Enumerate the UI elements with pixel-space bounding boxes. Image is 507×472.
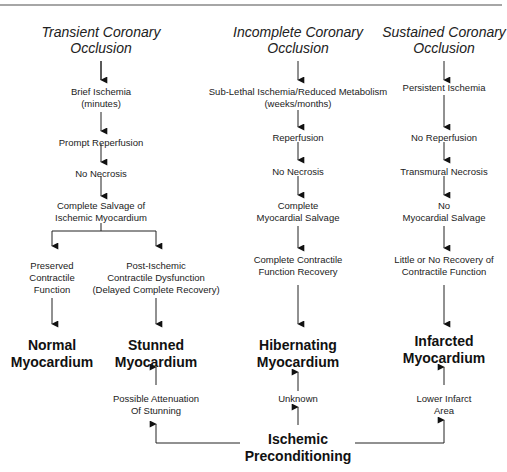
step-no-necrosis-transient: No Necrosis — [75, 168, 127, 180]
step-sublethal-ischemia: Sub-Lethal Ischemia/Reduced Metabolism (… — [209, 86, 387, 110]
step-complete-myocardial-salvage: Complete Myocardial Salvage — [257, 200, 340, 224]
outcome-normal-myocardium: Normal Myocardium — [11, 337, 93, 371]
title-transient-occlusion: Transient Coronary Occlusion — [42, 24, 161, 56]
title-sustained-occlusion: Sustained Coronary Occlusion — [382, 24, 506, 56]
step-no-reperfusion: No Reperfusion — [411, 132, 477, 144]
step-reperfusion: Reperfusion — [272, 132, 323, 144]
title-incomplete-occlusion: Incomplete Coronary Occlusion — [233, 24, 363, 56]
step-complete-salvage: Complete Salvage of Ischemic Myocardium — [55, 200, 147, 224]
flow-diagram: Transient Coronary Occlusion Incomplete … — [0, 0, 507, 472]
outcome-hibernating-myocardium: Hibernating Myocardium — [257, 337, 339, 371]
step-preserved-function: Preserved Contractile Function — [29, 260, 74, 296]
effect-unknown: Unknown — [278, 393, 318, 405]
step-no-myocardial-salvage: No Myocardial Salvage — [403, 200, 486, 224]
outcome-stunned-myocardium: Stunned Myocardium — [115, 337, 197, 371]
step-no-necrosis-incomplete: No Necrosis — [272, 166, 324, 178]
effect-attenuation-of-stunning: Possible Attenuation Of Stunning — [113, 393, 199, 417]
step-post-ischemic-dysfunction: Post-Ischemic Contractile Dysfunction (D… — [92, 260, 219, 296]
step-prompt-reperfusion: Prompt Reperfusion — [59, 137, 143, 149]
step-little-or-no-recovery: Little or No Recovery of Contractile Fun… — [394, 254, 493, 278]
step-persistent-ischemia: Persistent Ischemia — [403, 82, 486, 94]
step-transmural-necrosis: Transmural Necrosis — [400, 166, 487, 178]
step-complete-function-recovery: Complete Contractile Function Recovery — [254, 254, 343, 278]
outcome-infarcted-myocardium: Infarcted Myocardium — [403, 333, 485, 367]
effect-lower-infarct-area: Lower Infarct Area — [417, 393, 472, 417]
step-brief-ischemia: Brief Ischemia (minutes) — [71, 86, 131, 110]
ischemic-preconditioning-node: Ischemic Preconditioning — [245, 431, 352, 465]
